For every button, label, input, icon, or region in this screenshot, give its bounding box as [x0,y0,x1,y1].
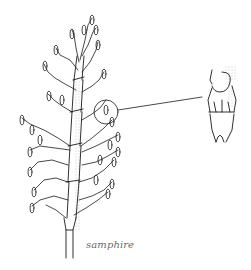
branch-tips [20,15,120,213]
plant-drawing [0,0,251,270]
magnifier-circle [94,100,118,124]
callout-line [118,97,202,110]
caption: samphire [86,239,134,250]
branches [22,18,118,218]
